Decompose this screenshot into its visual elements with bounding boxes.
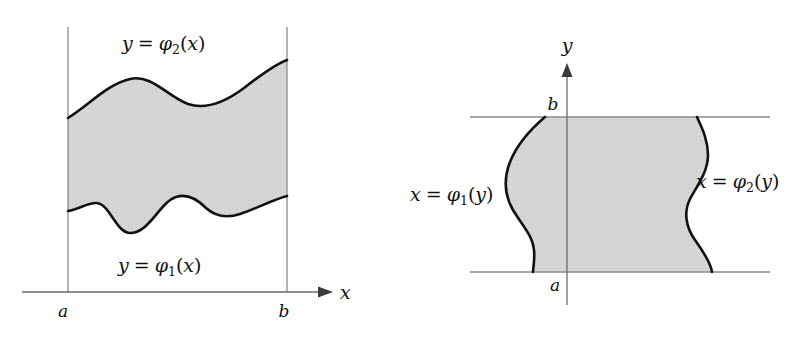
x-axis-arrowhead bbox=[318, 287, 333, 298]
y-axis-arrowhead bbox=[562, 63, 573, 77]
tick-label-b: b bbox=[279, 301, 290, 321]
right-label-paren-open: ( bbox=[754, 170, 761, 192]
lower-curve-label: y=φ1(x) bbox=[117, 254, 201, 279]
left-label-lhs: x bbox=[410, 183, 421, 205]
upper-label-arg: x bbox=[187, 32, 198, 54]
type-i-region-diagram: y=φ2(x) y=φ1(x) x a b bbox=[0, 0, 400, 338]
y-axis-label: y bbox=[561, 34, 573, 56]
upper-label-paren-close: ) bbox=[198, 32, 205, 54]
left-label-subscript: 1 bbox=[460, 193, 468, 208]
right-label-equals: = bbox=[712, 170, 728, 192]
upper-label-equals: = bbox=[138, 32, 154, 54]
tick-label-a: a bbox=[550, 275, 560, 295]
right-label-subscript: 2 bbox=[746, 180, 754, 195]
upper-label-paren-open: ( bbox=[180, 32, 187, 54]
tick-label-b: b bbox=[548, 94, 559, 114]
tick-label-a: a bbox=[58, 301, 68, 321]
type-ii-region-diagram: x=φ1(y) x=φ2(y) y b a bbox=[400, 0, 794, 338]
lower-label-paren-open: ( bbox=[176, 254, 183, 276]
lower-label-fn: φ bbox=[155, 254, 169, 276]
lower-label-arg: x bbox=[183, 254, 194, 276]
upper-label-fn: φ bbox=[159, 32, 173, 54]
type-ii-shaded-region bbox=[506, 117, 712, 272]
figure-container: y=φ2(x) y=φ1(x) x a b bbox=[0, 0, 794, 338]
upper-curve-label: y=φ2(x) bbox=[121, 32, 205, 57]
left-label-arg: y bbox=[474, 183, 486, 205]
upper-label-subscript: 2 bbox=[172, 42, 180, 57]
lower-label-paren-close: ) bbox=[194, 254, 201, 276]
left-label-fn: φ bbox=[447, 183, 461, 205]
left-label-equals: = bbox=[426, 183, 442, 205]
lower-label-subscript: 1 bbox=[168, 264, 176, 279]
left-label-paren-open: ( bbox=[468, 183, 475, 205]
lower-label-lhs: y bbox=[117, 254, 129, 276]
x-axis-label: x bbox=[340, 281, 351, 303]
left-curve-label: x=φ1(y) bbox=[410, 183, 493, 208]
type-i-shaded-region bbox=[68, 60, 287, 233]
upper-label-lhs: y bbox=[121, 32, 133, 54]
left-label-paren-close: ) bbox=[486, 183, 493, 205]
right-curve-label: x=φ2(y) bbox=[696, 170, 779, 195]
right-label-arg: y bbox=[760, 170, 772, 192]
right-label-paren-close: ) bbox=[772, 170, 779, 192]
right-label-lhs: x bbox=[696, 170, 707, 192]
right-label-fn: φ bbox=[733, 170, 747, 192]
lower-label-equals: = bbox=[134, 254, 150, 276]
